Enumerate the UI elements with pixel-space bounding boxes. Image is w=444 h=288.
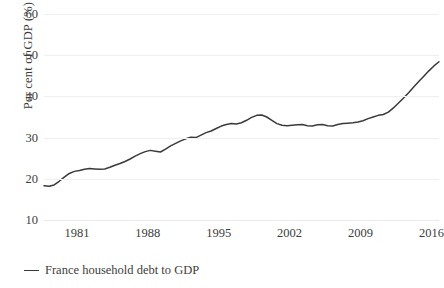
x-tick-label-2002: 2002 (277, 226, 302, 241)
y-tick-label-10: 10 (26, 213, 39, 228)
series-line-france-household-debt (44, 14, 439, 220)
legend-label-france-household-debt: France household debt to GDP (45, 263, 199, 278)
y-tick-label-60: 60 (26, 7, 39, 22)
x-tick-label-1988: 1988 (135, 226, 160, 241)
gridline-y-40 (44, 96, 439, 97)
plot-area: 102030405060198119881995200220092016 (44, 14, 439, 220)
gridline-y-30 (44, 138, 439, 139)
y-tick-label-50: 50 (26, 48, 39, 63)
gridline-y-60 (44, 14, 439, 15)
y-tick-label-20: 20 (26, 171, 39, 186)
x-tick-label-1981: 1981 (64, 226, 89, 241)
chart-legend: France household debt to GDP (24, 263, 199, 278)
gridline-y-50 (44, 55, 439, 56)
gridline-y-20 (44, 179, 439, 180)
x-tick-label-2016: 2016 (419, 226, 444, 241)
y-tick-label-30: 30 (26, 130, 39, 145)
x-tick-label-2009: 2009 (348, 226, 373, 241)
gridline-y-10 (44, 220, 439, 221)
y-tick-label-40: 40 (26, 89, 39, 104)
x-tick-label-1995: 1995 (206, 226, 231, 241)
series-path (44, 62, 439, 186)
legend-line-marker (24, 270, 39, 271)
